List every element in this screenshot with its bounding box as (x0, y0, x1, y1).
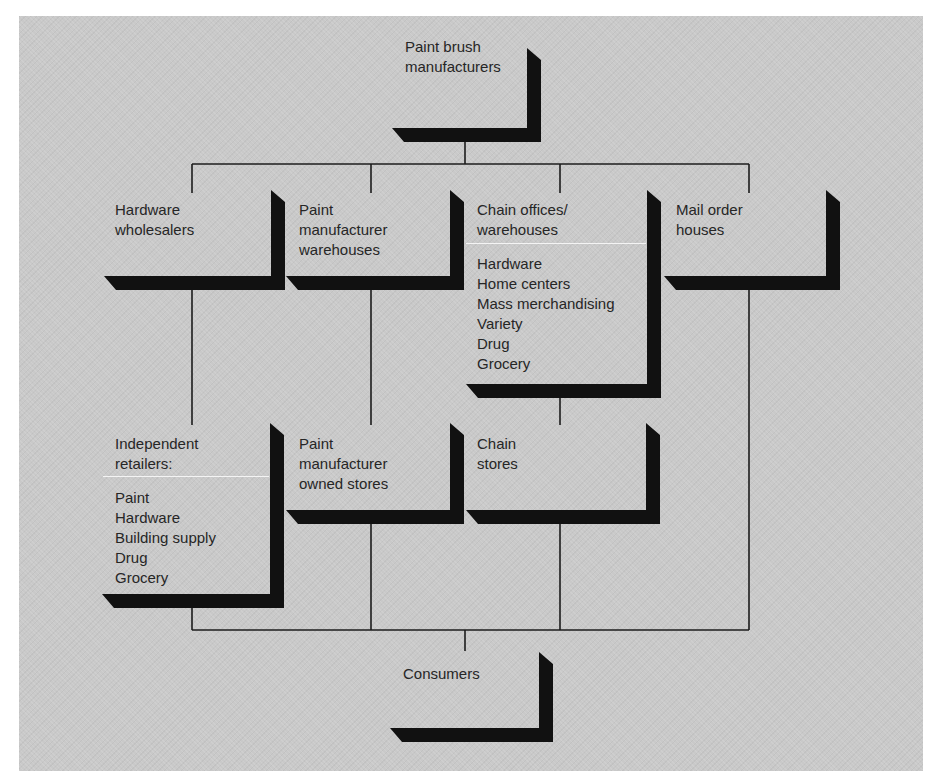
list-item: Drug (477, 334, 615, 354)
node-label-line: Paint (299, 200, 387, 220)
chain-offices-list: Hardware Home centers Mass merchandising… (477, 254, 615, 374)
node-label-line: manufacturer (299, 220, 387, 240)
list-item: Hardware (477, 254, 615, 274)
node-label-line: Paint (299, 434, 388, 454)
node-label-line: houses (676, 220, 743, 240)
list-item: Hardware (115, 508, 216, 528)
node-label-line: owned stores (299, 474, 388, 494)
list-item: Grocery (115, 568, 216, 588)
independent-retailers-list: Paint Hardware Building supply Drug Groc… (115, 488, 216, 588)
node-label-line: Independent (115, 434, 198, 454)
node-label-line: Chain (477, 434, 518, 454)
node-shadows (102, 48, 840, 742)
node-paint-manufacturer-warehouses: Paint manufacturer warehouses (299, 200, 387, 260)
list-item: Grocery (477, 354, 615, 374)
node-paint-manufacturer-stores: Paint manufacturer owned stores (299, 434, 388, 494)
list-item: Drug (115, 548, 216, 568)
node-label-line: retailers: (115, 454, 198, 474)
list-item: Home centers (477, 274, 615, 294)
node-label-line: Hardware (115, 200, 194, 220)
chain-offices-divider (466, 243, 646, 244)
node-hardware-wholesalers: Hardware wholesalers (115, 200, 194, 240)
list-item: Mass merchandising (477, 294, 615, 314)
node-label-line: warehouses (477, 220, 568, 240)
list-item: Paint (115, 488, 216, 508)
node-label-line: manufacturer (299, 454, 388, 474)
node-consumers: Consumers (403, 664, 480, 684)
list-item: Building supply (115, 528, 216, 548)
node-chain-stores: Chain stores (477, 434, 518, 474)
node-label-line: warehouses (299, 240, 387, 260)
node-label-line: Chain offices/ (477, 200, 568, 220)
node-label-line: stores (477, 454, 518, 474)
node-chain-offices: Chain offices/ warehouses (477, 200, 568, 240)
node-label-line: manufacturers (405, 57, 501, 77)
independent-retailers-divider (103, 476, 269, 477)
node-label-line: Paint brush (405, 37, 501, 57)
node-manufacturers: Paint brush manufacturers (405, 37, 501, 77)
node-independent-retailers: Independent retailers: (115, 434, 198, 474)
node-label-line: Consumers (403, 664, 480, 684)
distribution-flow-diagram (0, 0, 934, 779)
node-label-line: Mail order (676, 200, 743, 220)
node-label-line: wholesalers (115, 220, 194, 240)
list-item: Variety (477, 314, 615, 334)
node-mail-order: Mail order houses (676, 200, 743, 240)
